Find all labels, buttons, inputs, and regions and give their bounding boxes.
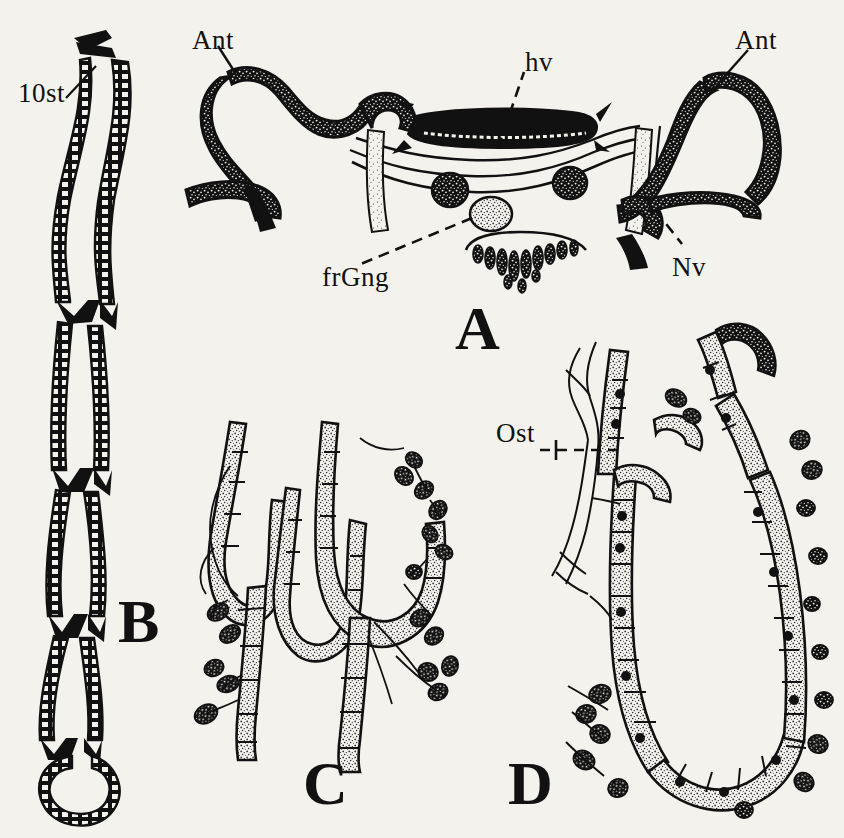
a-heart-vessel bbox=[408, 109, 597, 148]
panel-letter-c: C bbox=[303, 752, 348, 814]
label-ant-left: Ant bbox=[192, 25, 234, 56]
panel-letter-b: B bbox=[118, 590, 159, 652]
a-frontal-ganglion bbox=[470, 197, 512, 231]
label-ost: Ost bbox=[496, 418, 535, 449]
label-hv: hv bbox=[525, 47, 553, 78]
panel-letter-d: D bbox=[508, 752, 553, 814]
label-frgng: frGng bbox=[322, 262, 389, 293]
a-corpus-left bbox=[432, 173, 468, 207]
panel-letter-a: A bbox=[455, 297, 500, 359]
a-corpus-right bbox=[553, 167, 587, 199]
label-10st: 10st bbox=[18, 78, 65, 109]
label-ant-right: Ant bbox=[735, 25, 777, 56]
label-nv: Nv bbox=[672, 252, 706, 283]
anatomical-plate bbox=[0, 0, 844, 838]
